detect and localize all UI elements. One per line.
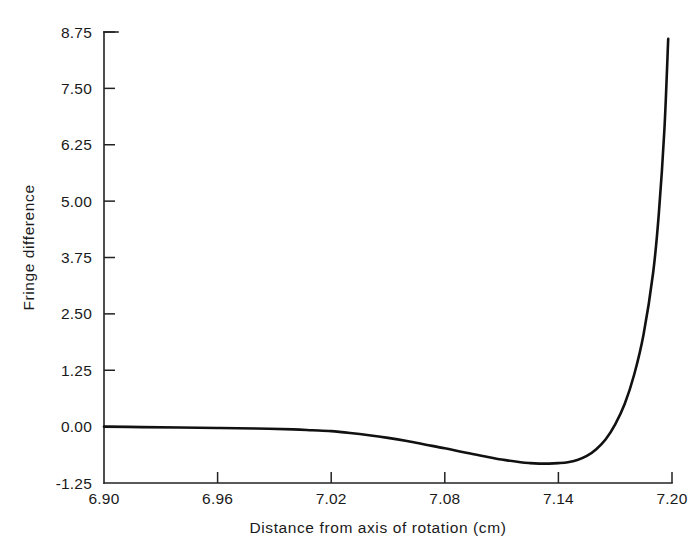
x-axis-title: Distance from axis of rotation (cm)	[249, 519, 506, 536]
y-tick-label: -1.25	[56, 475, 92, 492]
x-tick-label: 7.20	[657, 490, 688, 507]
y-tick-label: 6.25	[61, 136, 92, 153]
x-tick-label: 6.90	[89, 490, 120, 507]
y-axis-tick-labels: 8.757.506.255.003.752.501.250.00-1.25	[56, 24, 93, 492]
y-tick-label: 8.75	[61, 24, 92, 41]
x-tick-label: 7.14	[543, 490, 574, 507]
y-axis-title: Fringe difference	[20, 184, 37, 310]
x-tick-label: 7.02	[316, 490, 347, 507]
y-tick-label: 2.50	[61, 305, 92, 322]
y-tick-label: 0.00	[61, 418, 92, 435]
x-tick-label: 6.96	[202, 490, 233, 507]
y-tick-label: 1.25	[61, 362, 92, 379]
fringe-difference-plot: 8.757.506.255.003.752.501.250.00-1.25 6.…	[0, 0, 692, 553]
y-tick-label: 5.00	[61, 193, 92, 210]
x-tick-label: 7.08	[429, 490, 460, 507]
chart-figure: 8.757.506.255.003.752.501.250.00-1.25 6.…	[0, 0, 692, 553]
y-tick-label: 7.50	[61, 80, 92, 97]
y-tick-label: 3.75	[61, 249, 92, 266]
